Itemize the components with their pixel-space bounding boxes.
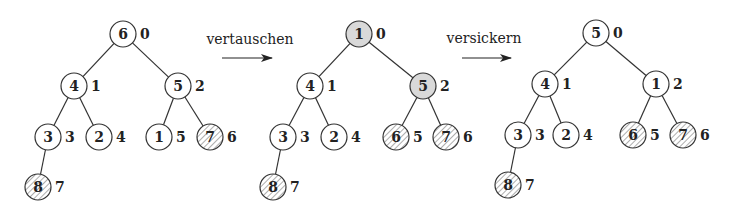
tree-edge (319, 43, 350, 76)
heap-node: 50 (583, 20, 623, 46)
tree-edge (402, 97, 417, 125)
node-index: 0 (376, 26, 386, 42)
heap-node: 87 (495, 172, 535, 198)
tree-edge (369, 42, 413, 78)
node-value: 1 (354, 26, 364, 42)
heap-node: 76 (197, 124, 237, 150)
node-value: 3 (513, 127, 523, 143)
tree-after-sift-down: 5041123324657687 (495, 20, 710, 198)
heap-node: 41 (61, 73, 101, 99)
heap-node: 33 (270, 124, 310, 150)
nodes-layer: 6041523324157687104152332465768750411233… (25, 20, 710, 200)
transition-label: versickern (446, 30, 522, 46)
node-value: 2 (94, 129, 104, 145)
heap-node: 33 (35, 124, 75, 150)
heap-node: 15 (146, 124, 186, 150)
node-value: 2 (329, 129, 339, 145)
node-index: 6 (463, 129, 473, 145)
heap-node: 12 (643, 71, 683, 97)
node-index: 1 (327, 78, 337, 94)
tree-edge (524, 95, 539, 123)
node-index: 1 (91, 78, 101, 94)
node-value: 3 (278, 129, 288, 145)
heap-node: 41 (532, 71, 572, 97)
node-index: 3 (65, 129, 75, 145)
heap-node: 24 (86, 124, 126, 150)
heap-node: 52 (410, 73, 450, 99)
tree-edge (662, 95, 677, 123)
tree-edge (80, 98, 94, 126)
node-value: 8 (33, 179, 43, 195)
node-value: 3 (43, 129, 53, 145)
node-value: 1 (651, 76, 661, 92)
transition-arrow: vertauschen (205, 31, 293, 58)
node-value: 1 (154, 129, 164, 145)
heap-node: 87 (260, 174, 300, 200)
node-value: 7 (441, 129, 451, 145)
node-value: 6 (118, 26, 128, 42)
heap-node: 24 (321, 124, 361, 150)
tree-edge (41, 150, 46, 175)
transition-arrow: versickern (446, 30, 522, 58)
heap-node: 24 (553, 122, 593, 148)
heap-node: 76 (433, 124, 473, 150)
node-index: 0 (140, 26, 150, 42)
edges-layer (41, 41, 677, 174)
tree-edge (164, 98, 174, 125)
node-value: 6 (628, 127, 638, 143)
tree-edge (54, 98, 68, 126)
tree-edge (276, 150, 281, 175)
node-value: 2 (561, 127, 571, 143)
tree-edge (550, 96, 561, 123)
node-index: 7 (290, 179, 300, 195)
node-value: 4 (305, 78, 315, 94)
node-value: 4 (540, 76, 550, 92)
tree-edge (132, 43, 168, 77)
tree-edge (638, 96, 650, 123)
node-value: 5 (591, 25, 601, 41)
node-index: 4 (351, 129, 361, 145)
node-value: 8 (268, 179, 278, 195)
tree-edge (606, 41, 646, 75)
node-index: 6 (700, 127, 710, 143)
tree-edge (428, 98, 440, 125)
node-index: 7 (525, 177, 535, 193)
heap-node: 87 (25, 174, 65, 200)
node-index: 2 (440, 78, 450, 94)
heap-node: 65 (383, 124, 423, 150)
node-index: 7 (55, 179, 65, 195)
heap-node: 10 (346, 21, 386, 47)
tree-edge (511, 148, 516, 173)
node-value: 8 (503, 177, 513, 193)
node-value: 5 (418, 78, 428, 94)
node-value: 5 (173, 78, 183, 94)
node-index: 2 (673, 76, 683, 92)
node-index: 3 (300, 129, 310, 145)
transition-label: vertauschen (205, 31, 293, 47)
tree-edge (289, 97, 304, 125)
node-value: 4 (69, 78, 79, 94)
node-index: 5 (176, 129, 186, 145)
tree-edge (185, 97, 203, 126)
tree-initial: 6041523324157687 (25, 21, 237, 200)
heap-node: 60 (110, 21, 150, 47)
node-value: 7 (678, 127, 688, 143)
node-index: 0 (613, 25, 623, 41)
node-value: 6 (391, 129, 401, 145)
tree-after-swap: 1041523324657687 (260, 21, 473, 200)
node-index: 3 (535, 127, 545, 143)
node-value: 7 (205, 129, 215, 145)
heap-node: 52 (165, 73, 205, 99)
node-index: 5 (650, 127, 660, 143)
node-index: 4 (116, 129, 126, 145)
heap-node: 76 (670, 122, 710, 148)
diagram-canvas: 6041523324157687104152332465768750411233… (0, 0, 730, 212)
node-index: 6 (227, 129, 237, 145)
node-index: 5 (413, 129, 423, 145)
tree-edge (316, 98, 329, 125)
node-index: 2 (195, 78, 205, 94)
heap-diagram: 6041523324157687104152332465768750411233… (0, 0, 730, 212)
heap-node: 65 (620, 122, 660, 148)
heap-node: 33 (505, 122, 545, 148)
tree-edge (83, 43, 114, 76)
